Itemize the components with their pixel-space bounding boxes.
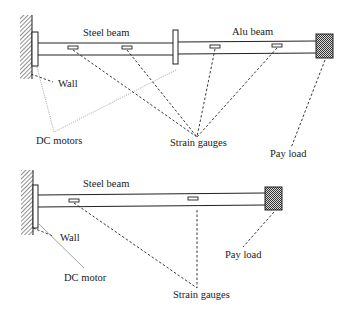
- strain-gauge-1: [68, 46, 78, 49]
- label-steel-beam-bottom: Steel beam: [83, 179, 129, 190]
- alu-beam-bottom-edge: [178, 53, 316, 54]
- payload-bottom: [265, 187, 282, 210]
- strain-gauge-4: [272, 44, 282, 47]
- label-dc-motors: DC motors: [36, 136, 82, 147]
- alu-beam-top-edge: [178, 41, 316, 42]
- label-wall-bottom: Wall: [60, 233, 80, 244]
- steel-beam-bottom-bottom-edge: [38, 205, 265, 207]
- dc-motor-pointer-bottom: [37, 222, 84, 268]
- label-strain-gauges-top: Strain gauges: [170, 138, 227, 149]
- payload-pointer-top: [291, 60, 325, 148]
- strain-gauge-2: [122, 46, 132, 49]
- label-wall-top: Wall: [58, 79, 78, 90]
- strain-gauge-3: [210, 45, 220, 48]
- bottom-single-link-diagram: [21, 170, 282, 288]
- strain-gauge-b1: [69, 199, 79, 202]
- label-strain-gauges-bottom: Strain gauges: [173, 290, 230, 301]
- dc-motor-base-bottom: [33, 185, 38, 228]
- payload-pointer-bottom: [243, 212, 274, 247]
- dc-motor-base-top: [32, 32, 38, 66]
- label-dc-motor: DC motor: [64, 273, 106, 284]
- label-pay-load-bottom: Pay load: [225, 250, 261, 261]
- strain-gauge-b2: [188, 197, 198, 200]
- wall-hatch-top: [20, 15, 32, 79]
- wall-pointer-top: [31, 74, 53, 82]
- dc-motor-pointers-top: [37, 67, 176, 132]
- dc-motor-joint: [173, 30, 178, 64]
- label-alu-beam: Alu beam: [232, 27, 273, 38]
- payload-top: [316, 34, 333, 58]
- label-steel-beam-top: Steel beam: [83, 28, 129, 39]
- wall-hatch-bottom: [21, 170, 33, 235]
- steel-beam-bottom-top-edge: [38, 193, 265, 195]
- label-pay-load-top: Pay load: [270, 149, 306, 160]
